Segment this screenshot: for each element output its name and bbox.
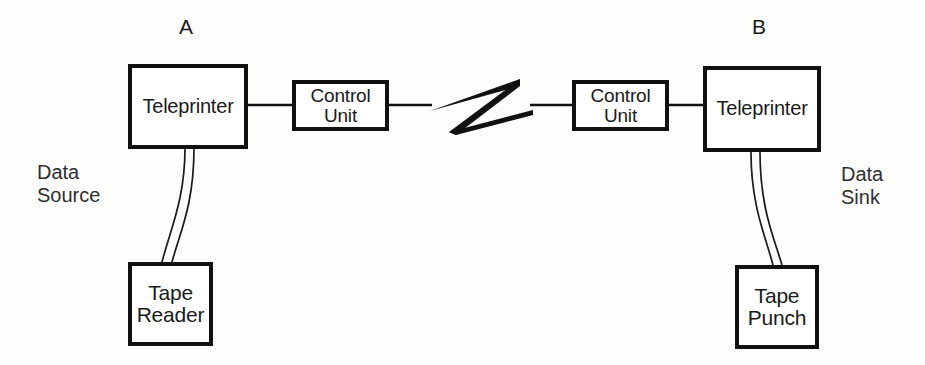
node-tape-punch-label: Tape Punch	[748, 285, 807, 330]
endpoint-label-data-sink: Data Sink	[841, 163, 883, 209]
terminal-label-b: B	[752, 15, 766, 39]
paper-tape-teleprinter-b-to-tape-punch	[751, 152, 782, 265]
node-tape-reader-label: Tape Reader	[137, 282, 205, 327]
terminal-label-a: A	[179, 15, 193, 39]
node-teleprinter-b[interactable]: Teleprinter	[703, 66, 821, 152]
diagram-canvas: A B Data Source Data Sink Teleprinter Co…	[0, 0, 925, 365]
node-tape-reader[interactable]: Tape Reader	[128, 262, 213, 346]
node-teleprinter-a[interactable]: Teleprinter	[128, 64, 248, 149]
node-control-unit-a[interactable]: Control Unit	[292, 80, 389, 131]
node-control-unit-a-label: Control Unit	[311, 86, 371, 125]
node-tape-punch[interactable]: Tape Punch	[735, 265, 819, 349]
node-teleprinter-a-label: Teleprinter	[142, 96, 233, 117]
node-control-unit-b[interactable]: Control Unit	[572, 80, 669, 131]
endpoint-label-data-source: Data Source	[37, 161, 100, 207]
paper-tape-teleprinter-a-to-tape-reader	[162, 148, 194, 262]
transmission-link-bolt-icon	[430, 79, 533, 135]
node-control-unit-b-label: Control Unit	[591, 86, 651, 125]
node-teleprinter-b-label: Teleprinter	[716, 98, 807, 119]
